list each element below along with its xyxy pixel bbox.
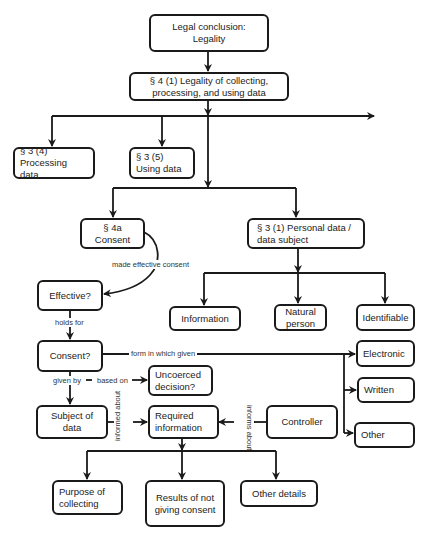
node-label: Results of not giving consent (153, 492, 217, 516)
node-label: § 3 (1) Personal data / data subject (257, 222, 355, 246)
node-label: Other details (252, 488, 306, 500)
node-electronic: Electronic (356, 340, 415, 367)
edge-label-informed-about: informed about (114, 403, 134, 441)
node-label: Legal conclusion: Legality (156, 21, 262, 45)
node-label: Other (361, 429, 385, 441)
node-other-details: Other details (240, 480, 318, 507)
node-sec4-1-legality: § 4 (1) Legality of collecting, processi… (129, 72, 289, 101)
node-label: Natural person (280, 306, 321, 330)
edge-label-based-on: based on (97, 376, 128, 385)
node-sec3-4-processing: § 3 (4) Processing data (13, 147, 95, 179)
node-label: Purpose of collecting (59, 486, 116, 510)
node-sec4a-consent: § 4a Consent (80, 218, 145, 249)
node-label: Effective? (49, 290, 91, 302)
edge-label-given-by: given by (53, 376, 81, 385)
node-sec3-5-using: § 3 (5) Using data (129, 147, 195, 179)
node-label: Identifiable (363, 312, 409, 324)
node-required-information: Required information (148, 405, 219, 439)
edge-label-informs-about: informs about (233, 405, 253, 441)
node-subject-of-data: Subject of data (36, 405, 108, 439)
node-legal-conclusion: Legal conclusion: Legality (149, 14, 269, 52)
node-label: § 3 (5) Using data (136, 151, 188, 175)
node-label: Information (181, 313, 229, 325)
node-label: § 4 (1) Legality of collecting, processi… (139, 75, 279, 99)
edge-label-made-effective: made effective consent (112, 260, 189, 269)
node-consent: Consent? (37, 340, 103, 372)
node-label: Controller (281, 416, 322, 428)
node-controller: Controller (266, 405, 338, 439)
node-purpose-of-collecting: Purpose of collecting (52, 480, 123, 515)
node-uncoerced-decision: Uncoerced decision? (148, 365, 213, 396)
node-label: Consent? (50, 350, 91, 362)
node-label: Required information (155, 410, 212, 434)
node-effective: Effective? (37, 280, 103, 311)
node-label: Written (364, 384, 394, 396)
node-results-of-not-giving-consent: Results of not giving consent (145, 480, 225, 527)
node-sec3-1-personal-data: § 3 (1) Personal data / data subject (247, 218, 365, 249)
node-label: Subject of data (41, 410, 103, 434)
node-label: Electronic (363, 348, 405, 360)
node-label: § 4a Consent (87, 222, 138, 246)
node-identifiable: Identifiable (356, 304, 415, 331)
node-natural-person: Natural person (274, 304, 327, 331)
node-information: Information (169, 306, 241, 331)
edge-label-form-in-which-given: form in which given (129, 349, 197, 358)
edge-label-holds-for: holds for (55, 318, 84, 327)
node-written: Written (357, 377, 415, 403)
node-label: § 3 (4) Processing data (20, 145, 88, 181)
node-label: Uncoerced decision? (155, 369, 206, 393)
node-other: Other (354, 422, 415, 448)
